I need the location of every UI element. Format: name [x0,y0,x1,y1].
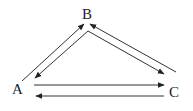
node-label-c: C [169,84,179,100]
edge-b-to-c [88,31,164,74]
edge-b-to-a [35,31,88,78]
node-label-b: B [82,6,92,22]
edge-a-to-b [22,24,84,81]
node-label-a: A [12,81,23,97]
edge-c-to-b [90,24,176,72]
triangle-graph-diagram: B A C [0,0,193,111]
